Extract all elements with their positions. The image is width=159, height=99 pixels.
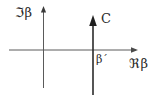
real-axis	[9, 47, 138, 53]
contour-c-arrowhead-icon	[89, 15, 97, 26]
real-axis-arrowhead-icon	[131, 47, 138, 53]
real-axis-label: ℜβ	[129, 57, 149, 70]
imaginary-axis-arrowhead-icon	[41, 6, 46, 13]
beta-prime-label: β´	[96, 54, 108, 65]
imaginary-axis-label: ℑβ	[15, 6, 33, 19]
imaginary-axis	[41, 6, 46, 88]
complex-plane-contour-figure: ℑβ ℜβ C β´	[0, 0, 159, 99]
contour-c-label: C	[101, 12, 111, 25]
